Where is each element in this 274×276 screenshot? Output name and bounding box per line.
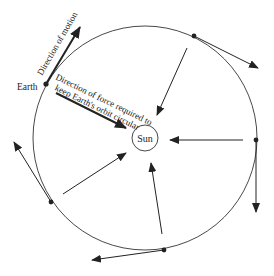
force-arrow — [151, 163, 162, 234]
planet-dot — [192, 34, 197, 39]
position-bottom — [92, 163, 166, 260]
planet-dot — [162, 248, 167, 253]
earth-label: Earth — [17, 82, 38, 92]
earth-dot — [43, 81, 48, 86]
position-bottom-left — [14, 142, 126, 204]
tangent-arrow — [92, 250, 164, 260]
position-top-right — [157, 34, 258, 115]
force-arrow — [63, 153, 126, 194]
earth-position: Earth Direction of motion Direction of f… — [17, 10, 154, 137]
sun-label: Sun — [137, 133, 153, 144]
planet-dot — [49, 200, 54, 205]
tangent-arrow — [14, 142, 51, 202]
diagram-canvas: Sun Earth Direction of motion Direction … — [0, 0, 274, 276]
orbit-diagram: Sun Earth Direction of motion Direction … — [0, 0, 274, 276]
planet-dot — [254, 138, 259, 143]
position-right — [170, 138, 258, 212]
force-arrow — [157, 48, 187, 115]
tangent-arrow — [194, 36, 258, 68]
motion-label: Direction of motion — [35, 10, 80, 77]
